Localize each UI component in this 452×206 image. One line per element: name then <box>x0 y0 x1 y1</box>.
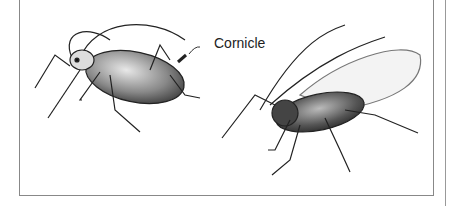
wingless-aphid <box>35 25 200 132</box>
pointer-arrow <box>189 47 200 54</box>
cornicle-label: Cornicle <box>214 35 265 51</box>
aphid-illustration <box>0 0 452 206</box>
